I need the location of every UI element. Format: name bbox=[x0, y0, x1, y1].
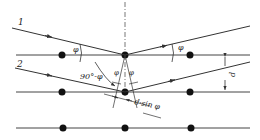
spacing-label: d bbox=[228, 72, 237, 77]
bragg-diagram: 1 2 φ φ φ φ 90°-φ d d·sin φ bbox=[0, 0, 260, 140]
atom bbox=[59, 89, 66, 96]
atom bbox=[122, 125, 129, 132]
path-difference-label: d·sin φ bbox=[134, 97, 162, 111]
atom bbox=[187, 89, 194, 96]
ray-label-1: 1 bbox=[18, 17, 24, 27]
ray-1 bbox=[12, 26, 250, 55]
angle-label-left: φ bbox=[73, 45, 79, 54]
atom bbox=[60, 125, 67, 132]
ray-label-2: 2 bbox=[16, 59, 23, 69]
angle-label-center-left: φ bbox=[114, 69, 119, 77]
angle-label-right: φ bbox=[178, 43, 184, 52]
complement-angle-label: 90°-φ bbox=[80, 72, 103, 81]
angle-label-center-right: φ bbox=[129, 69, 134, 77]
atom bbox=[187, 52, 194, 59]
atom bbox=[59, 52, 66, 59]
atom bbox=[188, 125, 195, 132]
